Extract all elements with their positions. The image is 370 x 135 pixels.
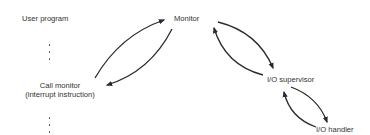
arrow-handler-to-supervisor [284,92,316,127]
arrow-supervisor-to-handler [291,87,327,122]
node-monitor: Monitor [174,14,199,23]
arrow-call-to-monitor [95,20,164,78]
call-monitor-label: Call monitor [5,81,115,90]
ellipsis-dot [49,51,51,53]
call-monitor-sublabel: (interrupt instruction) [5,90,115,99]
arrow-supervisor-to-monitor [214,28,263,75]
ellipsis-dot [49,131,51,133]
node-io-handler: I/O handler [316,125,354,134]
arrow-monitor-to-call [107,29,172,85]
ellipsis-dot [49,44,51,46]
ellipsis-dot [49,58,51,60]
node-io-supervisor: I/O supervisor [267,75,314,84]
ellipsis-lower [48,117,51,135]
node-call-monitor: Call monitor (interrupt instruction) [5,81,115,99]
node-user-program: User program [22,14,68,23]
ellipsis-upper [48,44,51,65]
ellipsis-dot [49,117,51,119]
arrow-monitor-to-supervisor [218,22,273,68]
ellipsis-dot [49,124,51,126]
